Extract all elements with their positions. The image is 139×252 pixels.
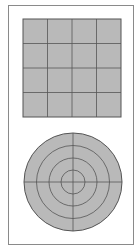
diagram-canvas xyxy=(0,0,139,252)
square-grid xyxy=(23,19,121,117)
polar-grid xyxy=(24,133,122,231)
